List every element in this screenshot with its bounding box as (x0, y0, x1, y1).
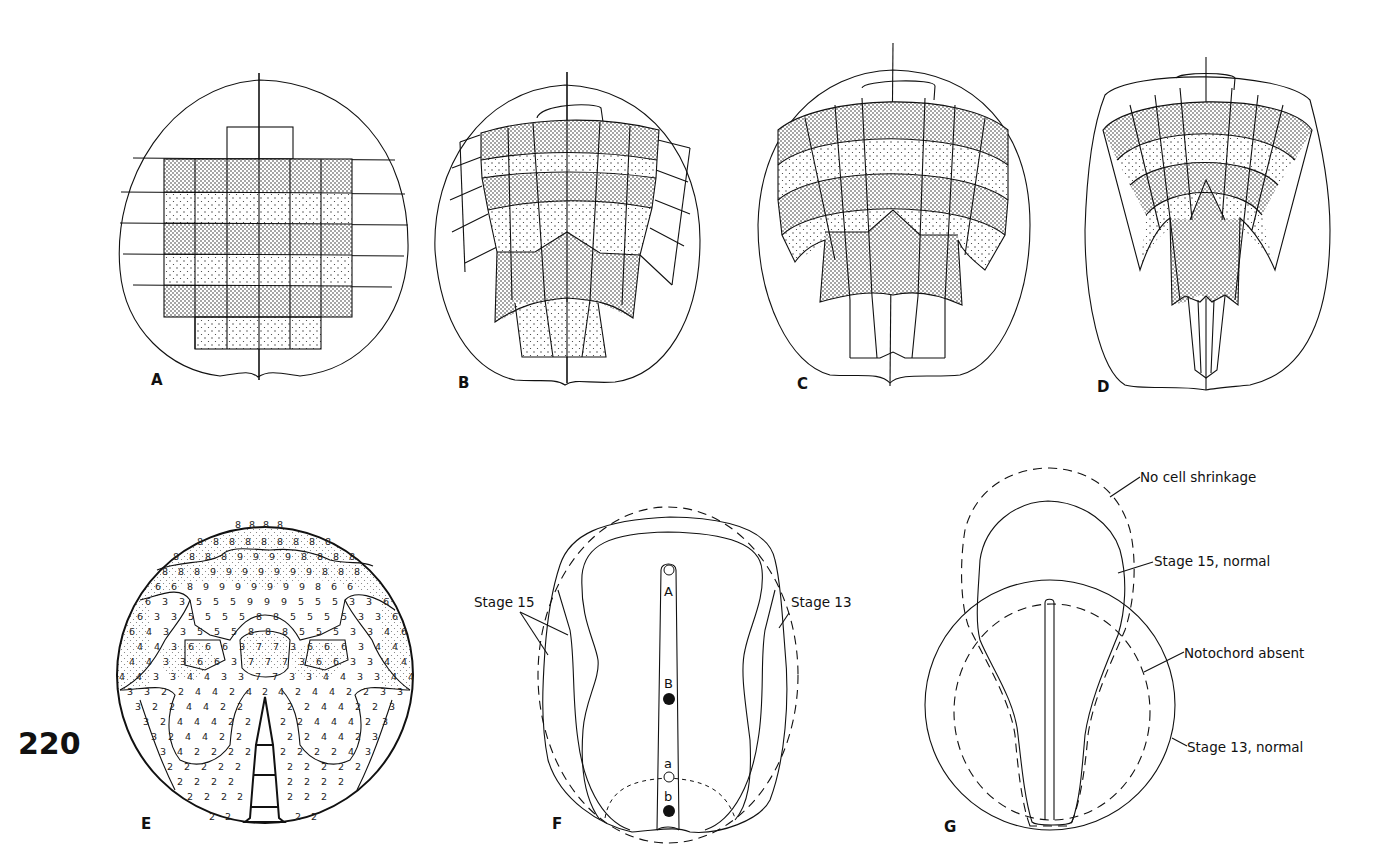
point-a-lower (664, 772, 674, 782)
svg-text:2: 2 (235, 761, 241, 772)
svg-text:3: 3 (239, 641, 245, 652)
svg-text:8: 8 (256, 611, 262, 622)
svg-text:4: 4 (338, 731, 344, 742)
svg-text:3: 3 (382, 716, 388, 727)
svg-text:5: 5 (222, 611, 228, 622)
svg-text:3: 3 (372, 731, 378, 742)
svg-text:8: 8 (333, 551, 339, 562)
svg-text:3: 3 (367, 656, 373, 667)
svg-text:9: 9 (264, 596, 270, 607)
svg-text:2: 2 (237, 701, 243, 712)
svg-text:9: 9 (283, 581, 289, 592)
svg-text:8: 8 (325, 536, 331, 547)
svg-text:9: 9 (251, 581, 257, 592)
svg-text:3: 3 (163, 626, 169, 637)
svg-text:2: 2 (229, 686, 235, 697)
svg-text:2: 2 (184, 761, 190, 772)
svg-text:4: 4 (323, 671, 329, 682)
svg-text:7: 7 (273, 641, 279, 652)
svg-text:9: 9 (219, 581, 225, 592)
svg-text:6: 6 (188, 641, 194, 652)
svg-text:3: 3 (299, 656, 305, 667)
svg-text:2: 2 (304, 701, 310, 712)
svg-text:4: 4 (154, 641, 160, 652)
annotation-stage-15-normal: Stage 15, normal (1154, 553, 1270, 569)
svg-text:4: 4 (348, 716, 354, 727)
svg-text:4: 4 (384, 626, 390, 637)
svg-text:5: 5 (239, 611, 245, 622)
svg-text:9: 9 (274, 566, 280, 577)
svg-text:3: 3 (380, 686, 386, 697)
svg-text:5: 5 (333, 626, 339, 637)
svg-text:8: 8 (309, 536, 315, 547)
svg-text:2: 2 (314, 746, 320, 757)
svg-text:4: 4 (312, 686, 318, 697)
svg-text:4: 4 (338, 701, 344, 712)
annotation-no-cell-shrinkage: No cell shrinkage (1140, 469, 1256, 485)
svg-text:2: 2 (287, 776, 293, 787)
svg-text:4: 4 (129, 656, 135, 667)
panel-a: A (119, 73, 408, 389)
svg-text:3: 3 (349, 596, 355, 607)
svg-text:3: 3 (127, 686, 133, 697)
svg-text:4: 4 (177, 746, 183, 757)
svg-text:3: 3 (171, 641, 177, 652)
svg-text:6: 6 (316, 656, 322, 667)
svg-text:8: 8 (221, 551, 227, 562)
svg-text:3: 3 (144, 686, 150, 697)
svg-text:4: 4 (321, 701, 327, 712)
svg-text:2: 2 (321, 776, 327, 787)
svg-text:3: 3 (180, 656, 186, 667)
svg-text:3: 3 (151, 731, 157, 742)
svg-text:8: 8 (235, 519, 241, 530)
svg-text:5: 5 (230, 596, 236, 607)
svg-text:2: 2 (365, 716, 371, 727)
svg-text:2: 2 (262, 686, 268, 697)
svg-text:2: 2 (228, 776, 234, 787)
svg-text:2: 2 (297, 716, 303, 727)
annotation-notochord-absent: Notochord absent (1184, 645, 1304, 661)
svg-text:8: 8 (187, 581, 193, 592)
svg-text:9: 9 (237, 551, 243, 562)
svg-text:6: 6 (205, 641, 211, 652)
svg-text:2: 2 (225, 811, 231, 822)
svg-text:5: 5 (213, 596, 219, 607)
svg-text:9: 9 (269, 551, 275, 562)
svg-text:4: 4 (187, 671, 193, 682)
svg-text:8: 8 (197, 536, 203, 547)
svg-text:4: 4 (137, 641, 143, 652)
svg-text:2: 2 (355, 701, 361, 712)
svg-text:5: 5 (324, 611, 330, 622)
svg-text:2: 2 (321, 791, 327, 802)
svg-text:8: 8 (173, 551, 179, 562)
svg-text:7: 7 (265, 656, 271, 667)
svg-text:5: 5 (231, 626, 237, 637)
svg-text:3: 3 (367, 626, 373, 637)
svg-text:8: 8 (265, 626, 271, 637)
svg-text:5: 5 (316, 626, 322, 637)
svg-text:4: 4 (204, 671, 210, 682)
svg-text:6: 6 (331, 581, 337, 592)
svg-text:4: 4 (185, 731, 191, 742)
svg-text:3: 3 (231, 656, 237, 667)
svg-text:4: 4 (146, 656, 152, 667)
svg-text:4: 4 (408, 671, 414, 682)
svg-text:6: 6 (401, 626, 407, 637)
svg-text:2: 2 (201, 761, 207, 772)
svg-text:8: 8 (263, 519, 269, 530)
svg-text:6: 6 (383, 596, 389, 607)
svg-text:2: 2 (338, 761, 344, 772)
svg-text:5: 5 (290, 611, 296, 622)
svg-text:4: 4 (392, 641, 398, 652)
svg-text:3: 3 (350, 626, 356, 637)
svg-text:4: 4 (136, 671, 142, 682)
svg-text:4: 4 (331, 716, 337, 727)
svg-text:2: 2 (167, 761, 173, 772)
svg-text:8: 8 (315, 581, 321, 592)
point-label-A: A (664, 584, 673, 599)
svg-text:2: 2 (221, 791, 227, 802)
svg-text:2: 2 (211, 776, 217, 787)
svg-text:2: 2 (287, 761, 293, 772)
svg-text:2: 2 (338, 776, 344, 787)
svg-text:2: 2 (311, 811, 317, 822)
